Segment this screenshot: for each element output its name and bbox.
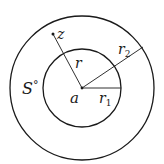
point-z [52, 33, 55, 36]
label-a: a [70, 89, 79, 107]
label-r1: r1 [99, 90, 111, 108]
annulus-diagram: z r r2 a r1 S° [0, 0, 164, 164]
label-r: r [75, 55, 83, 71]
label-z: z [56, 26, 65, 42]
label-r2: r2 [118, 41, 130, 59]
center-point-a [81, 87, 84, 90]
label-s-interior: S° [22, 79, 38, 98]
radius-r2-line [82, 47, 143, 88]
label-s-sup: ° [33, 79, 39, 92]
label-r1-sub: 1 [106, 98, 112, 108]
label-r2-sub: 2 [125, 49, 131, 59]
label-s-main: S [22, 79, 33, 98]
